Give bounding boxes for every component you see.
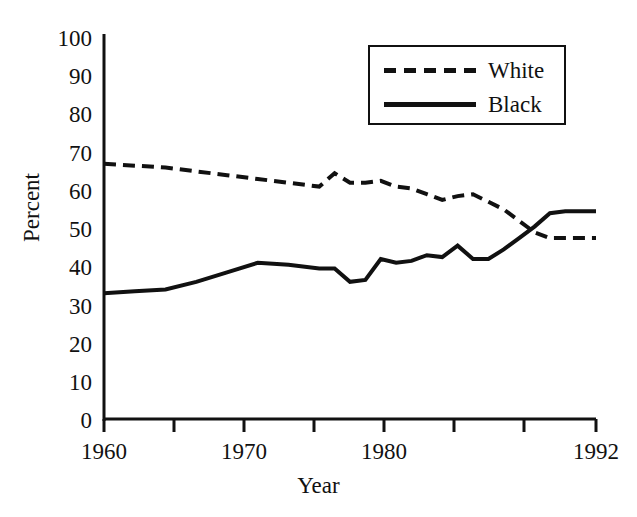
y-tick-label-20: 20 [34, 333, 92, 356]
y-tick-label-80: 80 [34, 103, 92, 126]
y-tick-label-10: 10 [34, 371, 92, 394]
legend-item-white: White [370, 55, 568, 87]
y-tick-label-70: 70 [34, 142, 92, 165]
y-tick-label-30: 30 [34, 295, 92, 318]
x-axis-ticks [104, 419, 596, 432]
legend-swatch-dashed-icon [384, 67, 476, 73]
x-tick-label-1970: 1970 [198, 440, 290, 463]
legend-label-white: White [488, 59, 544, 82]
y-tick-label-40: 40 [34, 256, 92, 279]
legend-item-black: Black [370, 89, 568, 121]
y-tick-label-90: 90 [34, 65, 92, 88]
line-chart: 100 90 80 70 60 50 40 30 20 10 0 1960 19… [0, 0, 637, 517]
x-tick-label-1992: 1992 [550, 440, 637, 463]
x-axis-title: Year [0, 474, 637, 497]
chart-legend: White Black [368, 45, 566, 125]
x-tick-label-1960: 1960 [58, 440, 150, 463]
series-line-white [104, 164, 596, 238]
y-tick-label-100: 100 [34, 27, 92, 50]
data-series-layer [104, 164, 596, 294]
x-tick-label-1980: 1980 [338, 440, 430, 463]
legend-swatch-solid-icon [384, 102, 476, 107]
legend-label-black: Black [488, 93, 542, 116]
y-axis-title: Percent [20, 153, 43, 263]
y-tick-label-0: 0 [34, 409, 92, 432]
